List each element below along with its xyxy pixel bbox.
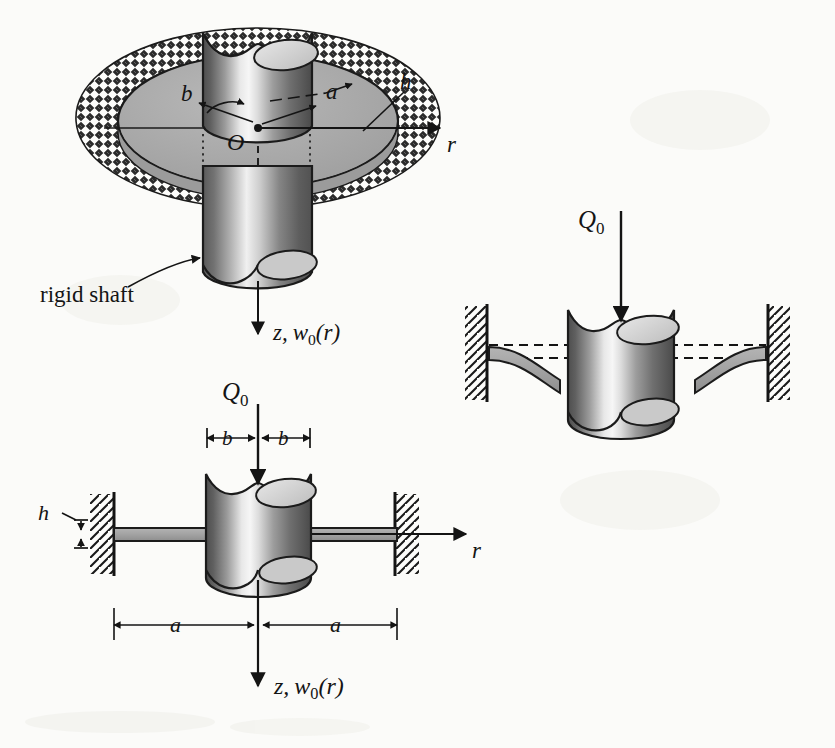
label-w-sub-top: 0 bbox=[308, 331, 316, 348]
deformed-plate-left bbox=[489, 347, 560, 393]
dimension-a bbox=[114, 608, 397, 640]
bottom-section-view: Q0 b b a a h r bbox=[38, 378, 482, 703]
label-w-arg-top: (r) bbox=[316, 320, 340, 345]
bottom-view-left-wall bbox=[90, 492, 114, 576]
right-deformed-view: Q0 bbox=[465, 206, 790, 439]
label-z-bottom: z, bbox=[273, 673, 289, 699]
label-rigid-shaft: rigid shaft bbox=[40, 282, 135, 307]
label-r-top: r bbox=[447, 132, 457, 157]
label-w-sub-bottom: 0 bbox=[310, 684, 318, 703]
label-h-bottom: h bbox=[38, 500, 49, 525]
label-z-w0-top: z,w0(r) bbox=[272, 320, 340, 348]
svg-text:z,w0(r): z,w0(r) bbox=[273, 673, 344, 703]
label-a-left: a bbox=[170, 612, 181, 637]
right-view-right-wall bbox=[768, 304, 790, 402]
label-a-right: a bbox=[330, 612, 341, 637]
label-w-arg-bottom: (r) bbox=[319, 673, 344, 699]
label-b-top: b bbox=[181, 81, 193, 106]
figure-page: b a h O r rigid shaft z,w0(r) bbox=[0, 0, 835, 748]
label-Q0-right: Q0 bbox=[578, 206, 605, 238]
label-r-bottom: r bbox=[472, 538, 482, 563]
label-b-left: b bbox=[222, 426, 233, 450]
deformed-plate-right bbox=[695, 347, 766, 393]
label-a-top: a bbox=[326, 79, 338, 104]
dimension-h bbox=[62, 513, 88, 548]
plate-section-left bbox=[114, 528, 206, 541]
label-z-top: z, bbox=[272, 320, 288, 345]
top-perspective-view: b a h O r rigid shaft z,w0(r) bbox=[40, 28, 457, 348]
label-w-top: w bbox=[293, 320, 309, 345]
svg-text:z,w0(r): z,w0(r) bbox=[272, 320, 340, 348]
label-b-right: b bbox=[278, 426, 289, 450]
right-view-left-wall bbox=[465, 304, 487, 402]
label-origin-top: O bbox=[227, 129, 244, 155]
label-w-bottom: w bbox=[294, 673, 310, 699]
label-Q0-bottom: Q0 bbox=[222, 378, 249, 410]
label-h-top: h bbox=[400, 69, 412, 94]
rigid-shaft-lower bbox=[203, 166, 318, 288]
origin-point bbox=[254, 124, 262, 132]
label-z-w0-bottom: z,w0(r) bbox=[273, 673, 344, 703]
rigid-shaft-right-view bbox=[568, 310, 680, 439]
rigid-shaft-bottom-view bbox=[206, 474, 318, 597]
engineering-figure: b a h O r rigid shaft z,w0(r) bbox=[0, 0, 835, 748]
